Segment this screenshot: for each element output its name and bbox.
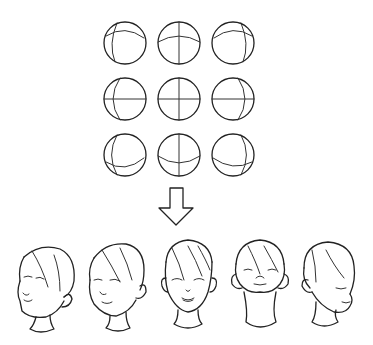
sphere-down [158, 134, 200, 176]
sphere-down-right [212, 134, 254, 176]
sphere-up-left [104, 22, 146, 64]
head-front [162, 240, 217, 328]
down-arrow-icon [159, 188, 193, 225]
sphere-up-right [212, 22, 254, 64]
sphere-down-left [104, 134, 146, 176]
head-three-quarter [90, 244, 147, 331]
sphere-right [212, 78, 254, 120]
head-rotation-diagram [0, 0, 373, 345]
sphere-front [158, 78, 200, 120]
head-up [232, 240, 289, 327]
head-down-right [302, 242, 355, 326]
head-left-tilt [18, 247, 74, 332]
sphere-up [158, 22, 200, 64]
sphere-left [104, 78, 146, 120]
